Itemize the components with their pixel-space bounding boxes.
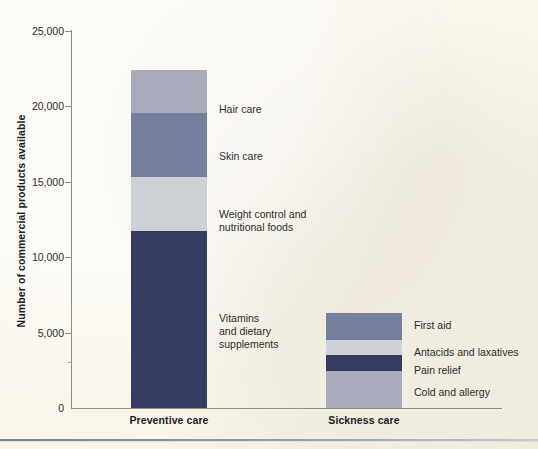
callout-pain-relief: Pain relief xyxy=(414,364,461,377)
y-tick-15000 xyxy=(65,182,72,183)
y-tick-label-0: 0 xyxy=(20,403,64,413)
callout-antacids-laxatives: Antacids and laxatives xyxy=(414,346,518,359)
y-tick-label-0-wrap: 0 xyxy=(12,403,64,413)
callout-weight-control: Weight control and nutritional foods xyxy=(219,208,306,234)
y-tick-label-25000-wrap: 25,000 xyxy=(12,26,64,36)
bar-sickness-care xyxy=(326,313,402,408)
category-label-preventive-care: Preventive care xyxy=(99,414,239,426)
y-tick-5000 xyxy=(65,333,72,334)
y-tick-25000 xyxy=(65,31,72,32)
stacked-bar-chart-figure: 25,000 20,000 15,000 10,000 5,000 0 Numb… xyxy=(0,0,538,449)
segment-vitamins xyxy=(131,231,207,408)
callout-vitamins: Vitamins and dietary supplements xyxy=(219,312,279,351)
callout-skin-care: Skin care xyxy=(219,150,263,163)
y-tick-minor xyxy=(68,362,72,363)
category-label-sickness-care: Sickness care xyxy=(299,414,429,426)
callout-cold-allergy: Cold and allergy xyxy=(414,386,490,399)
y-tick-label-25000: 25,000 xyxy=(20,26,64,36)
callout-hair-care: Hair care xyxy=(219,103,262,116)
bar-preventive-care xyxy=(131,70,207,408)
y-axis-title: Number of commercial products available xyxy=(15,101,27,341)
segment-hair-care xyxy=(131,70,207,113)
footer-divider-highlight xyxy=(0,441,538,442)
segment-pain-relief xyxy=(326,355,402,371)
y-axis-line xyxy=(71,30,72,409)
segment-skin-care xyxy=(131,113,207,177)
y-tick-20000 xyxy=(65,106,72,107)
segment-cold-allergy xyxy=(326,371,402,408)
segment-antacids-laxatives xyxy=(326,340,402,355)
x-axis-line xyxy=(71,408,502,409)
segment-weight-control xyxy=(131,177,207,231)
y-tick-10000 xyxy=(65,257,72,258)
callout-first-aid: First aid xyxy=(414,319,451,332)
segment-first-aid xyxy=(326,313,402,340)
